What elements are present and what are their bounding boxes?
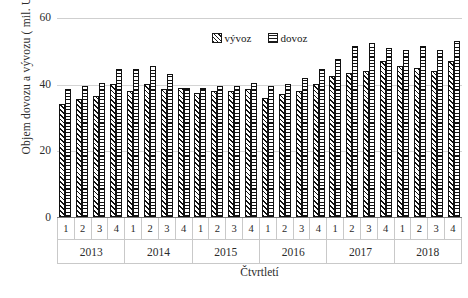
- x-tick-label-quarter: 3: [91, 218, 108, 240]
- bar-dovoz[interactable]: [200, 88, 206, 217]
- x-tick-label-quarter: 2: [343, 218, 360, 240]
- bar-series-container: [57, 18, 462, 217]
- x-tick-label-quarter: 4: [377, 218, 394, 240]
- bar-dovoz[interactable]: [150, 66, 156, 217]
- x-tick-label-quarter: 2: [74, 218, 91, 240]
- x-tick-label-quarter: 1: [259, 218, 276, 240]
- x-tick-label-quarter: 4: [309, 218, 326, 240]
- x-tick-label-year: 2016: [259, 240, 326, 264]
- bar-dovoz[interactable]: [352, 46, 358, 217]
- x-tick-label-quarter: 1: [57, 218, 74, 240]
- y-tick-label-0: 0: [21, 212, 51, 224]
- bar-dovoz[interactable]: [268, 86, 274, 217]
- bar-dovoz[interactable]: [319, 69, 325, 217]
- bar-group-q1: [57, 18, 74, 217]
- x-tick-label-quarter: 4: [175, 218, 192, 240]
- bar-dovoz[interactable]: [335, 59, 341, 217]
- bar-dovoz[interactable]: [133, 69, 139, 217]
- x-tick-label-quarter: 1: [394, 218, 411, 240]
- bar-group-q13: [260, 18, 277, 217]
- bar-dovoz[interactable]: [251, 83, 257, 217]
- bar-group-q19: [361, 18, 378, 217]
- bar-dovoz[interactable]: [302, 78, 308, 217]
- x-axis: 123412341234123412341234 201320142015201…: [57, 218, 462, 264]
- bar-group-q4: [108, 18, 125, 217]
- bar-group-q15: [293, 18, 310, 217]
- x-tick-label-quarter: 4: [242, 218, 259, 240]
- bar-group-q22: [411, 18, 428, 217]
- bar-group-q20: [378, 18, 395, 217]
- x-tick-label-quarter: 3: [158, 218, 175, 240]
- bar-dovoz[interactable]: [369, 43, 375, 217]
- x-tick-label-quarter: 2: [208, 218, 225, 240]
- bar-dovoz[interactable]: [420, 46, 426, 217]
- bar-group-q11: [226, 18, 243, 217]
- x-tick-label-year: 2018: [394, 240, 462, 264]
- bar-group-q23: [428, 18, 445, 217]
- bar-group-q8: [175, 18, 192, 217]
- bar-dovoz[interactable]: [184, 88, 190, 217]
- bar-dovoz[interactable]: [116, 69, 122, 217]
- bar-dovoz[interactable]: [82, 86, 88, 217]
- bar-group-q12: [243, 18, 260, 217]
- x-tick-label-quarter: 1: [192, 218, 209, 240]
- x-tick-label-quarter: 2: [410, 218, 427, 240]
- x-axis-title: Čtvrtletí: [57, 266, 462, 278]
- x-tick-label-quarter: 2: [276, 218, 293, 240]
- plot-area: 60 40 20 0 vývoz dovoz: [57, 18, 462, 218]
- x-tick-label-year: 2017: [326, 240, 393, 264]
- bar-group-q10: [209, 18, 226, 217]
- bar-group-q17: [327, 18, 344, 217]
- x-tick-label-quarter: 4: [444, 218, 462, 240]
- bar-group-q9: [192, 18, 209, 217]
- y-tick-label-40: 40: [21, 79, 51, 91]
- x-tick-label-quarter: 3: [225, 218, 242, 240]
- quarter-label-row: 123412341234123412341234: [57, 218, 462, 240]
- x-tick-label-quarter: 2: [141, 218, 158, 240]
- bar-dovoz[interactable]: [386, 48, 392, 217]
- x-tick-label-year: 2014: [124, 240, 191, 264]
- x-tick-label-year: 2015: [192, 240, 259, 264]
- x-tick-label-year: 2013: [57, 240, 124, 264]
- bar-dovoz[interactable]: [65, 89, 71, 217]
- bar-group-q7: [158, 18, 175, 217]
- y-tick-label-60: 60: [21, 12, 51, 24]
- year-label-row: 201320142015201620172018: [57, 240, 462, 264]
- y-tick-label-20: 20: [21, 146, 51, 158]
- bar-group-q18: [344, 18, 361, 217]
- bar-dovoz[interactable]: [217, 86, 223, 217]
- bar-dovoz[interactable]: [454, 41, 460, 217]
- bar-group-q21: [395, 18, 412, 217]
- bar-dovoz[interactable]: [167, 74, 173, 217]
- bar-group-q5: [125, 18, 142, 217]
- x-tick-label-quarter: 1: [326, 218, 343, 240]
- x-tick-label-quarter: 3: [427, 218, 444, 240]
- bar-group-q16: [310, 18, 327, 217]
- bar-group-q6: [141, 18, 158, 217]
- x-tick-label-quarter: 1: [124, 218, 141, 240]
- bar-dovoz[interactable]: [437, 50, 443, 217]
- bar-group-q24: [445, 18, 462, 217]
- bar-group-q3: [91, 18, 108, 217]
- bar-dovoz[interactable]: [403, 50, 409, 217]
- bar-dovoz[interactable]: [234, 86, 240, 217]
- x-tick-label-quarter: 3: [293, 218, 310, 240]
- x-tick-label-quarter: 3: [360, 218, 377, 240]
- x-tick-label-quarter: 4: [107, 218, 124, 240]
- bar-chart: Objem dovozu a vývozu ( mil. USD) 60 40 …: [0, 0, 468, 298]
- bar-group-q14: [276, 18, 293, 217]
- bar-group-q2: [74, 18, 91, 217]
- bar-dovoz[interactable]: [99, 83, 105, 217]
- bar-dovoz[interactable]: [285, 84, 291, 217]
